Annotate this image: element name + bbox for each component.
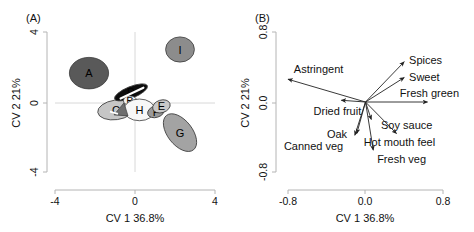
panel-b-xtick-label-1: 0.0 [358,195,373,207]
panel-b-loading-plot: (B) 0.8 0.0 -0.8 CV 2 21% -0.8 0.0 0.8 C… [237,0,474,232]
panel-b-tag: (B) [255,12,270,24]
panel-a-ellipse-group: AICDBHFEG [69,37,203,158]
cva-figure: (A) 4 0 -4 CV 2 21% -4 0 4 CV 1 36.8% AI… [0,0,474,232]
vector-label: Soy sauce [381,119,432,131]
vector-line [366,78,405,103]
vector-label: Oak [327,128,348,140]
panel-a-scores-plot: (A) 4 0 -4 CV 2 21% -4 0 4 CV 1 36.8% AI… [0,0,237,232]
vector-label: Fresh veg [377,153,426,165]
panel-a-ylabel: CV 2 21% [10,78,22,128]
vector-label: Astringent [294,63,344,75]
panel-b-xlabel: CV 1 36.8% [336,212,395,224]
vector-label: Spices [409,54,443,66]
vector-label: Canned veg [284,140,343,152]
panel-a-xtick-label-2: 4 [212,195,218,207]
ellipse-label-I: I [178,44,181,56]
panel-b-xtick-label-0: -0.8 [279,195,297,207]
vector-label: Dried fruit [314,105,362,117]
panel-a-xtick-label-0: -4 [50,195,59,207]
panel-a-svg: (A) 4 0 -4 CV 2 21% -4 0 4 CV 1 36.8% AI… [0,0,237,232]
panel-b-xtick-label-2: 0.8 [436,195,451,207]
ellipse-label-H: H [135,104,143,116]
ellipse-label-G: G [176,127,185,139]
panel-a-ytick-label-0: 4 [28,29,40,35]
vector-label: Hot mouth feel [364,136,436,148]
panel-a-xlabel: CV 1 36.8% [106,212,165,224]
panel-b-svg: (B) 0.8 0.0 -0.8 CV 2 21% -0.8 0.0 0.8 C… [237,0,474,232]
vector-line [288,79,366,102]
group-ellipse-G: G [157,108,203,158]
group-ellipse-A: A [69,57,108,89]
vector-label: Fresh green [400,87,459,99]
vector-astringent: Astringent [288,63,366,102]
vector-fresh-green: Fresh green [366,87,460,102]
ellipse-label-A: A [85,67,93,79]
panel-b-ytick-label-1: 0.0 [257,96,269,111]
panel-a-ytick-label-1: 0 [28,100,40,106]
vector-line [366,62,405,102]
vector-soy-sauce: Soy sauce [366,102,433,131]
panel-b-ytick-label-2: -0.8 [257,163,269,181]
panel-b-ytick-label-0: 0.8 [257,25,269,40]
panel-b-ylabel: CV 2 21% [239,78,251,128]
panel-a-tag: (A) [26,12,41,24]
panel-b-vector-group: AstringentDried fruitSpicesSweetFresh gr… [284,54,459,165]
group-ellipse-I: I [166,37,195,62]
vector-dried-fruit: Dried fruit [314,100,366,117]
panel-a-xtick-label-1: 0 [132,195,138,207]
ellipse-label-E: E [158,100,165,112]
panel-a-ytick-label-2: -4 [28,167,40,176]
vector-label: Sweet [409,71,440,83]
